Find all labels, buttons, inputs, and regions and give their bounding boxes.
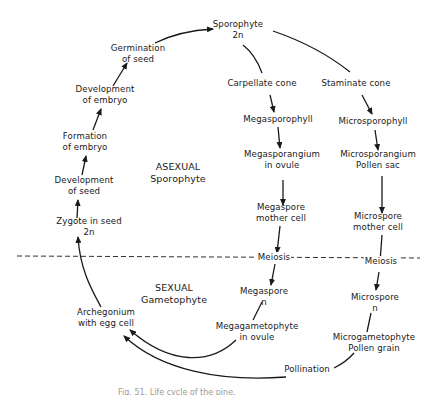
node-formation-of-embryo: Formation of embryo (63, 131, 108, 153)
node-archegonium: Archegonium with egg cell (77, 307, 135, 329)
arrow-sporophyte-to-carpellate (243, 45, 262, 73)
arrow-meiosis-to-microspore (376, 272, 379, 290)
arrow-microgametophyte-to-pollination (334, 353, 354, 368)
asexual-sexual-divider (17, 256, 420, 258)
node-megaspore: Megaspore n (240, 286, 288, 308)
region-sexual-gametophyte: SEXUAL Gametophyte (141, 282, 207, 306)
arrow-germination-to-sporophyte (155, 29, 213, 43)
node-megasporophyll: Megasporophyll (243, 114, 312, 125)
arrow-microsporophyll-to-microsporangium (375, 130, 378, 150)
arrow-microspore-to-microgametophyte (367, 313, 371, 332)
node-meiosis-left: Meiosis (257, 252, 291, 263)
region-asexual-sporophyte: ASEXUAL Sporophyte (150, 161, 206, 185)
node-germination-of-seed: Germination of seed (111, 43, 165, 65)
node-microsporophyll: Microsporophyll (338, 116, 407, 127)
node-zygote-in-seed: Zygote in seed 2n (56, 216, 122, 238)
arrow-megasporophyll-to-megasporangium (278, 127, 280, 148)
arrow-carpellate-to-megasporophyll (270, 95, 274, 112)
arrow-meiosis-to-megaspore (271, 264, 275, 285)
node-megasporangium: Megasporangium in ovule (244, 149, 320, 171)
arrow-staminate-to-microsporophyll (362, 95, 372, 114)
node-microspore-mother-cell: Microspore mother cell (353, 211, 403, 233)
node-development-of-seed: Development of seed (55, 175, 114, 197)
node-megagametophyte: Megagametophyte in ovule (216, 321, 299, 343)
node-microsporangium: Microsporangium Pollen sac (340, 149, 416, 171)
node-pollination: Pollination (284, 364, 330, 375)
node-microgametophyte: Microgametophyte Pollen grain (333, 332, 415, 354)
node-carpellate-cone: Carpellate cone (227, 78, 296, 89)
node-staminate-cone: Staminate cone (321, 78, 390, 89)
life-cycle-diagram: Sporophyte 2n Germination of seed Develo… (0, 0, 434, 395)
arrow-sporophyte-to-staminate (273, 31, 350, 72)
arrow-dev-embryo-to-germination (113, 63, 127, 86)
arrow-form-embryo-to-dev-embryo (93, 109, 101, 130)
node-meiosis-right: Meiosis (364, 256, 398, 267)
arrow-dev-seed-to-form-embryo (82, 156, 86, 175)
node-sporophyte: Sporophyte 2n (213, 19, 263, 41)
node-megaspore-mother-cell: Megaspore mother cell (256, 202, 306, 224)
node-development-of-embryo: Development of embryo (76, 84, 135, 106)
arrow-archegonium-to-zygote (78, 237, 101, 307)
figure-caption: Fig. 51. Life cycle of the pine. (118, 386, 236, 395)
arrow-megaspore-mother-to-meiosis (277, 226, 280, 253)
node-microspore: Microspore n (351, 292, 399, 314)
